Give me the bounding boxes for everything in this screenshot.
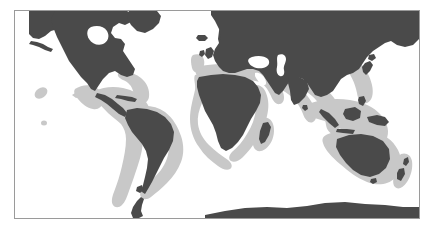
map-frame xyxy=(14,10,420,219)
world-distribution-map xyxy=(15,11,419,218)
screenshot-root: Land Distribution range Ocean xyxy=(0,0,431,230)
distribution-central-pacific xyxy=(41,121,47,126)
